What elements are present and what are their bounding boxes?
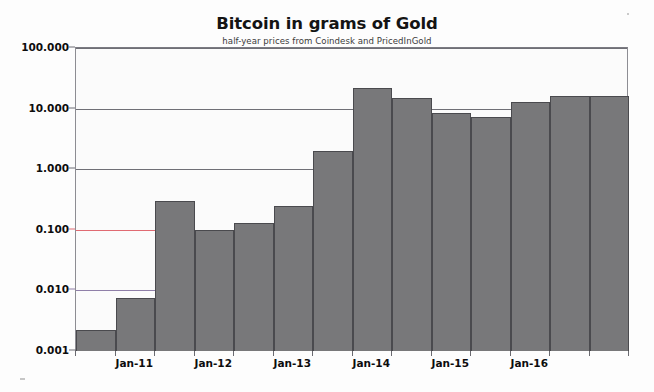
- bar: [590, 96, 630, 351]
- x-axis-tick-label: Jan-11: [116, 357, 153, 369]
- y-axis-tick-label: 0.001: [0, 344, 69, 356]
- bar: [550, 96, 590, 351]
- y-axis-tick-label: 100.000: [0, 41, 69, 53]
- x-axis-tick-label: Jan-14: [353, 357, 390, 369]
- bar: [432, 113, 472, 351]
- bar: [116, 298, 156, 351]
- y-axis-tick-label: 10.000: [0, 102, 69, 114]
- bar: [313, 151, 353, 351]
- chart-page: Bitcoin in grams of Gold half-year price…: [0, 0, 654, 392]
- y-axis-tick-label: 1.000: [0, 162, 69, 174]
- plot-area: [75, 47, 628, 350]
- bar: [76, 330, 116, 351]
- bar: [471, 117, 511, 351]
- bar: [511, 102, 551, 351]
- chart-title: Bitcoin in grams of Gold: [0, 14, 654, 33]
- bar: [155, 201, 195, 351]
- y-axis-tick-label: 0.100: [0, 223, 69, 235]
- chart-subtitle: half-year prices from Coindesk and Price…: [0, 36, 654, 46]
- x-axis-tick-label: Jan-13: [274, 357, 311, 369]
- x-axis-tick-label: Jan-12: [195, 357, 232, 369]
- bar: [392, 98, 432, 351]
- y-axis-tick-label: 0.010: [0, 283, 69, 295]
- bar: [234, 223, 274, 351]
- gridline-100.000: [76, 48, 627, 49]
- bar: [195, 230, 235, 351]
- bar: [274, 206, 314, 351]
- x-axis-tick-label: Jan-15: [432, 357, 469, 369]
- x-axis-tick-label: Jan-16: [511, 357, 548, 369]
- bar: [353, 88, 393, 351]
- paper-speck-icon: [20, 378, 25, 380]
